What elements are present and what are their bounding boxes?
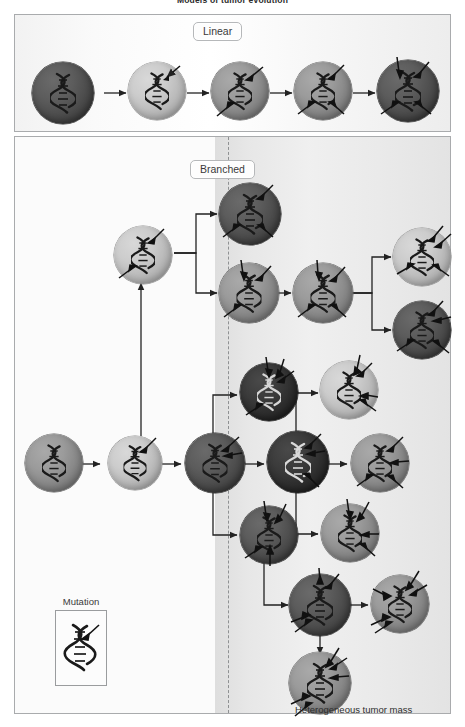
cell-linear-3: [211, 62, 269, 120]
cell-branched-upper-leaf-b: [393, 301, 451, 359]
dna-helix-icon: [338, 513, 362, 553]
dna-helix-icon: [228, 71, 252, 111]
dna-helix-icon: [257, 372, 281, 412]
cell-branched-upper-mid: [293, 263, 353, 323]
dna-helix-icon: [410, 237, 434, 277]
dna-helix-icon: [257, 515, 281, 555]
cell-branched-trunk-3: [185, 433, 245, 493]
cell-branched-lower-a: [240, 506, 298, 564]
cell-branched-lower-c: [289, 574, 351, 636]
cell-branched-upper-a: [219, 183, 281, 245]
dna-helix-icon: [388, 584, 412, 624]
cell-branched-upper-b: [219, 263, 279, 323]
dna-helix-icon: [285, 441, 311, 483]
mutation-legend-icon: [56, 611, 106, 685]
figure-root: Models of tumor evolution Linear Branche…: [0, 0, 465, 727]
dna-helix-icon: [368, 443, 392, 483]
cell-branched-upper-stem: [114, 226, 172, 284]
dna-helix-icon: [307, 584, 333, 626]
cell-branched-root: [25, 434, 83, 492]
cell-branched-lower-b: [321, 504, 379, 562]
dna-helix-icon: [311, 71, 335, 111]
dna-helix-icon: [203, 443, 228, 484]
cell-branched-trunk-2: [108, 436, 162, 490]
dna-helix-icon: [307, 662, 333, 704]
cell-branched-trunk-4: [267, 431, 329, 493]
cell-branched-mid-upper-b: [320, 361, 378, 419]
mutation-legend-title: Mutation: [49, 596, 113, 607]
chip-linear-label: Linear: [193, 22, 242, 41]
dna-helix-icon: [237, 273, 262, 314]
cell-linear-5: [377, 60, 439, 122]
cell-linear-2: [128, 62, 186, 120]
cell-branched-lower-d: [371, 575, 429, 633]
dna-helix-icon: [395, 70, 421, 112]
cell-branched-upper-leaf-a: [393, 228, 451, 286]
cell-branched-mid-upper-a: [240, 363, 298, 421]
dna-helix-icon: [50, 72, 76, 114]
dna-helix-icon: [145, 71, 169, 111]
cell-linear-1: [32, 62, 94, 124]
dna-helix-icon: [311, 273, 336, 314]
dna-helix-icon: [124, 444, 147, 482]
dna-helix-icon: [410, 310, 434, 350]
mutation-legend-box: [55, 610, 107, 686]
chip-branched-label: Branched: [190, 160, 255, 179]
dna-helix-icon: [237, 193, 263, 235]
mutation-legend: Mutation: [49, 596, 113, 686]
dna-helix-icon: [131, 235, 155, 275]
dna-helix-icon: [42, 443, 66, 483]
heterogeneous-tumor-mass-label: Heterogeneous tumor mass: [295, 704, 412, 715]
cell-branched-trunk-5: [351, 434, 409, 492]
dna-helix-icon: [337, 370, 361, 410]
cell-linear-4: [294, 62, 352, 120]
